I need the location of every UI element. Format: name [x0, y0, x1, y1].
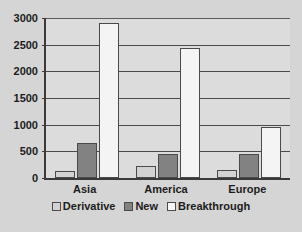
plot-area [44, 18, 290, 180]
legend-item-breakthrough[interactable]: Breakthrough [167, 201, 250, 212]
legend-swatch-icon [124, 202, 133, 211]
bar-derivative-america [136, 166, 156, 178]
x-axis-category-label: America [125, 181, 206, 197]
x-axis-category-labels: AsiaAmericaEurope [44, 181, 288, 197]
y-axis-tick-label: 0 [0, 173, 38, 184]
chart-legend: DerivativeNewBreakthrough [0, 201, 302, 212]
y-axis-tick-label: 2000 [0, 66, 38, 77]
y-axis-tick-label: 1000 [0, 119, 38, 130]
bar-new-america [158, 154, 178, 178]
bar-group-bars [209, 18, 290, 178]
bar-new-europe [239, 154, 259, 178]
legend-label: Breakthrough [178, 201, 250, 212]
legend-swatch-icon [52, 202, 61, 211]
bar-breakthrough-europe [261, 127, 281, 178]
bar-derivative-asia [55, 171, 75, 178]
bar-chart: 050010001500200025003000 AsiaAmericaEuro… [0, 0, 302, 232]
bar-group-bars [46, 18, 127, 178]
bar-group-bars [127, 18, 208, 178]
x-axis-category-label: Europe [207, 181, 288, 197]
bar-group [46, 18, 127, 178]
y-axis-tick-label: 500 [0, 146, 38, 157]
y-axis-tick-label: 2500 [0, 39, 38, 50]
legend-label: New [135, 201, 158, 212]
legend-label: Derivative [63, 201, 116, 212]
y-axis-labels: 050010001500200025003000 [0, 18, 40, 178]
bar-breakthrough-asia [99, 23, 119, 178]
x-axis-category-label: Asia [44, 181, 125, 197]
bar-group [209, 18, 290, 178]
bar-group [127, 18, 208, 178]
y-axis-tick-label: 3000 [0, 13, 38, 24]
bar-breakthrough-america [180, 48, 200, 178]
bar-new-asia [77, 143, 97, 178]
legend-swatch-icon [167, 202, 176, 211]
legend-item-derivative[interactable]: Derivative [52, 201, 116, 212]
y-axis-tick-mark [42, 178, 46, 179]
bar-derivative-europe [217, 170, 237, 178]
legend-item-new[interactable]: New [124, 201, 158, 212]
y-axis-tick-label: 1500 [0, 93, 38, 104]
